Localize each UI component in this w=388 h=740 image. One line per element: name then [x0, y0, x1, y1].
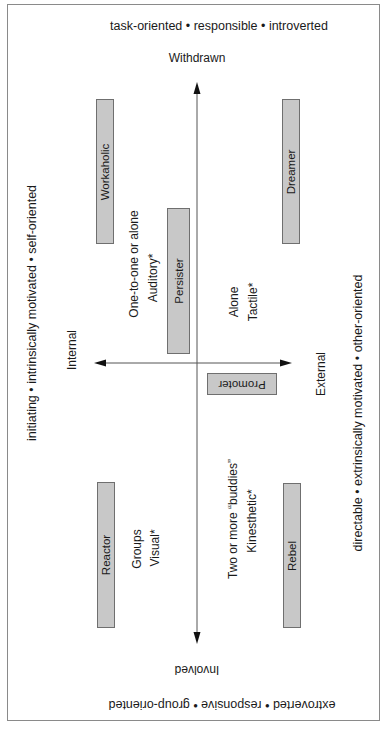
top-traits-caption: task-oriented • responsible • introverte…: [110, 19, 328, 33]
note-upper-left-line1: One-to-one or alone: [127, 210, 141, 317]
type-box-dreamer: Dreamer: [282, 99, 300, 244]
note-lower-left-line2: Visual*: [148, 529, 162, 566]
bottom-traits-caption: extroverted • responsive • group-oriente…: [109, 698, 336, 712]
note-upper-right-line2: Tactile*: [246, 283, 260, 322]
note-upper-right-line1: Alone: [227, 287, 241, 318]
arrow-right-icon: [280, 360, 292, 367]
type-label: Workaholic: [99, 143, 112, 200]
type-box-workaholic: Workaholic: [96, 99, 114, 244]
arrow-left-icon: [94, 360, 106, 367]
note-lower-right-line2: Kinesthetic*: [245, 489, 259, 552]
axis-label-internal: Internal: [65, 330, 79, 370]
type-box-persister: Persister: [167, 208, 190, 354]
type-label: Reactor: [100, 535, 113, 575]
type-box-promoter: Promoter: [207, 373, 277, 395]
note-lower-right-line1: Two or more “buddies”: [226, 459, 240, 579]
axes: [0, 0, 388, 740]
note-upper-left-line2: Auditory*: [146, 254, 160, 303]
axis-label-withdrawn: Withdrawn: [169, 51, 226, 65]
arrow-up-icon: [194, 82, 201, 94]
arrow-down-icon: [194, 632, 201, 644]
right-traits-caption: directable • extrinsically motivated • o…: [351, 275, 365, 552]
note-lower-left-line1: Groups: [130, 529, 144, 568]
axis-label-external: External: [314, 352, 328, 396]
axis-label-involved: Involved: [175, 663, 220, 677]
left-traits-caption: initiating • intrinsically motivated • s…: [25, 185, 39, 441]
type-label: Rebel: [286, 540, 299, 570]
type-label: Dreamer: [285, 149, 298, 194]
horizontal-axis: [94, 360, 292, 367]
type-box-reactor: Reactor: [97, 482, 115, 628]
type-label: Persister: [172, 258, 185, 303]
type-label: Promoter: [218, 378, 265, 391]
type-box-rebel: Rebel: [283, 483, 301, 628]
